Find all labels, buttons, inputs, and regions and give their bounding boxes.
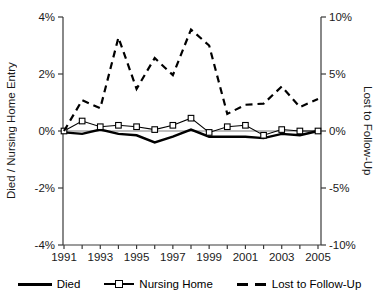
nursing-home-marker: [170, 123, 176, 129]
x-axis-tick-label: 2005: [305, 251, 331, 263]
nursing-home-marker: [243, 123, 249, 129]
legend-item-died: Died: [18, 278, 81, 290]
chart-plot: 4%2%0%-2%-4%10%5%0%-5%-10%19911993199519…: [0, 0, 379, 270]
legend-item-lost-to-follow-up: Lost to Follow-Up: [237, 278, 361, 290]
nursing-home-marker: [97, 124, 103, 130]
left-axis-title: Died / Nursing Home Entry: [3, 17, 19, 245]
legend-label-nursing-home: Nursing Home: [139, 278, 213, 290]
right-axis-tick-label: -5%: [329, 182, 349, 194]
nursing-home-marker: [206, 130, 212, 136]
x-axis-tick-label: 1995: [124, 251, 150, 263]
x-axis-tick-label: 1993: [87, 251, 113, 263]
nursing-home-marker-swatch-icon: [104, 283, 134, 285]
nursing-home-marker: [261, 132, 267, 138]
nursing-home-marker: [315, 128, 321, 134]
right-axis-tick-label: 0%: [329, 125, 346, 137]
right-axis-tick-label: 5%: [329, 68, 346, 80]
x-axis-tick-label: 1999: [196, 251, 222, 263]
right-axis-title: Lost to Follow-Up: [360, 17, 376, 245]
nursing-home-marker: [297, 128, 303, 134]
legend-item-nursing-home: Nursing Home: [104, 278, 213, 290]
x-axis-tick-label: 2001: [233, 251, 259, 263]
x-axis-tick-label: 1997: [160, 251, 186, 263]
nursing-home-marker: [279, 127, 285, 133]
legend-label-died: Died: [57, 278, 81, 290]
chart-legend: Died Nursing Home Lost to Follow-Up: [0, 274, 379, 294]
nursing-home-marker: [79, 118, 85, 124]
left-axis-tick-label: 0%: [38, 125, 55, 137]
left-axis-tick-label: 2%: [38, 68, 55, 80]
died-line-swatch-icon: [18, 283, 52, 286]
nursing-home-marker: [134, 124, 140, 130]
right-axis-tick-label: -10%: [329, 239, 356, 251]
left-axis-tick-label: 4%: [38, 11, 55, 23]
nursing-home-marker: [116, 123, 122, 129]
right-axis-tick-label: 10%: [329, 11, 352, 23]
chart-figure: 4%2%0%-2%-4%10%5%0%-5%-10%19911993199519…: [0, 0, 379, 299]
x-axis-tick-label: 1991: [51, 251, 77, 263]
nursing-home-marker: [188, 115, 194, 121]
legend-label-lost-to-follow-up: Lost to Follow-Up: [272, 278, 361, 290]
nursing-home-marker: [224, 124, 230, 130]
left-axis-tick-label: -4%: [35, 239, 55, 251]
lost-to-follow-up-dash-swatch-icon: [237, 283, 267, 286]
left-axis-tick-label: -2%: [35, 182, 55, 194]
nursing-home-marker: [152, 127, 158, 133]
x-axis-tick-label: 2003: [269, 251, 295, 263]
